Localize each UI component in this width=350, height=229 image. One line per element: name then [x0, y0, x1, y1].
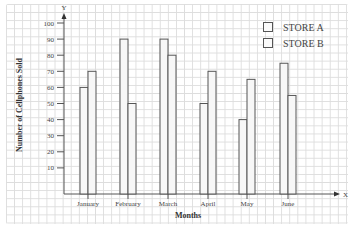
y-tick-label: 10	[47, 164, 55, 172]
bar-store-a	[239, 120, 247, 194]
legend-item-store-a: STORE A	[263, 19, 324, 35]
y-tick-label: 90	[47, 36, 55, 44]
x-tick-label: January	[77, 200, 99, 208]
x-axis-arrow-icon	[334, 192, 340, 197]
bar-store-b	[208, 71, 216, 194]
y-tick-label: 60	[47, 84, 55, 92]
y-tick-label: 70	[47, 68, 55, 76]
bar-store-b	[88, 71, 96, 194]
y-tick-label: 50	[47, 100, 55, 108]
bar-store-b	[247, 79, 255, 194]
bar-store-a	[280, 63, 288, 194]
bar-store-a	[80, 87, 88, 194]
legend-label: STORE A	[283, 22, 324, 33]
y-tick-label: 40	[47, 116, 55, 124]
x-tick-label: May	[241, 200, 254, 208]
legend-swatch-icon	[263, 38, 273, 48]
legend-label: STORE B	[283, 38, 324, 49]
x-tick-label: February	[115, 200, 141, 208]
x-axis-title: Months	[175, 211, 201, 220]
y-tick-label: 80	[47, 52, 55, 60]
bar-store-b	[168, 55, 176, 194]
bar-store-b	[288, 95, 296, 194]
x-tick-label: April	[201, 200, 216, 208]
y-tick-label: 20	[47, 148, 55, 156]
y-axis-title: Number of Cellphones Sold	[15, 58, 24, 152]
legend-swatch-icon	[263, 22, 273, 32]
legend-item-store-b: STORE B	[263, 35, 324, 51]
x-tick-label: March	[159, 200, 178, 208]
legend: STORE A STORE B	[263, 19, 324, 51]
x-axis-letter: X	[343, 191, 348, 199]
bar-store-b	[128, 104, 136, 195]
bar-store-a	[200, 104, 208, 195]
bar-store-a	[160, 39, 168, 194]
y-tick-label: 30	[47, 132, 55, 140]
y-axis-arrow-icon	[62, 13, 67, 19]
y-tick-label: 100	[44, 20, 55, 28]
y-axis-letter: Y	[61, 4, 66, 12]
x-tick-label: June	[282, 200, 295, 208]
bar-store-a	[120, 39, 128, 194]
